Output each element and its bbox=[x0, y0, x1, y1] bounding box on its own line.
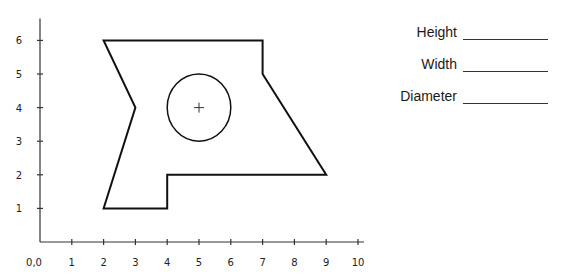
y-tick-label: 4 bbox=[16, 103, 22, 114]
y-tick-label: 2 bbox=[16, 170, 22, 181]
width-field[interactable]: Width bbox=[380, 40, 561, 72]
height-blank[interactable] bbox=[463, 25, 548, 40]
x-tick-label: 4 bbox=[164, 257, 170, 268]
outer-shape bbox=[104, 40, 327, 208]
y-tick-label: 5 bbox=[16, 69, 22, 80]
x-tick-label: 7 bbox=[259, 257, 265, 268]
coordinate-diagram: 123456789101234560,0 bbox=[0, 0, 380, 280]
height-field[interactable]: Height bbox=[380, 8, 561, 40]
diameter-blank[interactable] bbox=[463, 89, 548, 104]
x-tick-label: 2 bbox=[100, 257, 106, 268]
height-label: Height bbox=[417, 24, 457, 40]
x-tick-label: 3 bbox=[132, 257, 138, 268]
x-tick-label: 8 bbox=[291, 257, 297, 268]
x-tick-label: 1 bbox=[69, 257, 75, 268]
width-label: Width bbox=[421, 56, 457, 72]
x-tick-label: 9 bbox=[323, 257, 329, 268]
x-tick-label: 6 bbox=[228, 257, 234, 268]
diameter-label: Diameter bbox=[400, 88, 457, 104]
x-tick-label: 10 bbox=[352, 257, 365, 268]
diameter-field[interactable]: Diameter bbox=[380, 72, 561, 104]
measurement-fields: Height Width Diameter bbox=[380, 8, 561, 104]
origin-label: 0,0 bbox=[26, 257, 42, 268]
width-blank[interactable] bbox=[463, 57, 548, 72]
shapes bbox=[104, 40, 327, 208]
y-tick-label: 6 bbox=[16, 35, 22, 46]
x-tick-label: 5 bbox=[196, 257, 202, 268]
y-tick-label: 1 bbox=[16, 203, 22, 214]
y-tick-label: 3 bbox=[16, 136, 22, 147]
axes bbox=[37, 18, 364, 245]
